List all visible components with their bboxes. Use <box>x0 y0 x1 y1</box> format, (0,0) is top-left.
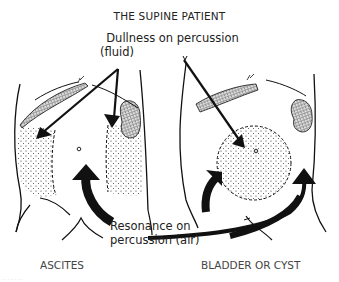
resonance-label-line2: percussion (air) <box>110 233 200 247</box>
dullness-label-line1: Dullness on percussion <box>0 31 339 45</box>
resonance-label-line1: Resonance on <box>110 219 191 233</box>
ascites-figure <box>15 69 152 240</box>
caption-bladder-cyst: BLADDER OR CYST <box>201 259 300 271</box>
watermark: · · · · · · · <box>2 276 23 282</box>
dullness-label-line2: (fluid) <box>100 45 134 59</box>
caption-ascites: ASCITES <box>40 259 84 271</box>
bladder-cyst-figure <box>148 56 326 240</box>
diagram-title: THE SUPINE PATIENT <box>0 10 339 22</box>
